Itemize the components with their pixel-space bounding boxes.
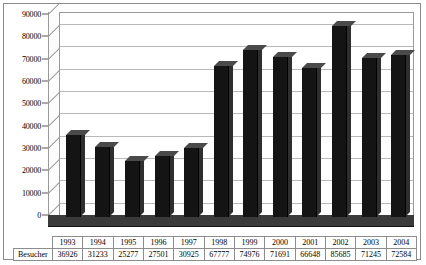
bar xyxy=(273,52,287,217)
table-value-cell: 74976 xyxy=(234,249,264,261)
table-value-cell: 85685 xyxy=(325,249,355,261)
y-axis-tick-label: 10000 xyxy=(22,188,41,197)
table-value-cell: 66648 xyxy=(295,249,325,261)
bar-front-face xyxy=(273,57,288,217)
table-year-cell: 2004 xyxy=(386,237,416,249)
bar-front-face xyxy=(332,26,347,217)
table-value-cell: 31233 xyxy=(83,249,113,261)
y-axis-tick-label: 90000 xyxy=(22,10,41,19)
y-axis-tick-label: 40000 xyxy=(22,121,41,130)
table-value-cell: 71691 xyxy=(265,249,295,261)
table-row-label: Besucher xyxy=(14,249,53,261)
bar xyxy=(391,50,405,217)
bar-front-face xyxy=(302,68,317,217)
y-axis-tick-label: 20000 xyxy=(22,166,41,175)
figure-frame: 0100002000030000400005000060000700008000… xyxy=(3,3,421,260)
table-value-cell: 25277 xyxy=(113,249,143,261)
table-value-cell: 72584 xyxy=(386,249,416,261)
table-year-cell: 2001 xyxy=(295,237,325,249)
bar xyxy=(362,53,376,217)
bar xyxy=(214,61,228,217)
bar xyxy=(243,45,257,217)
bar xyxy=(125,156,139,217)
table-corner-cell xyxy=(14,237,53,249)
bar xyxy=(302,63,316,217)
y-axis: 0100002000030000400005000060000700008000… xyxy=(4,4,48,238)
y-axis-tick-label: 50000 xyxy=(22,99,41,108)
chart-screenshot: 0100002000030000400005000060000700008000… xyxy=(0,0,426,265)
table-row-years: 1993199419951996199719981999200020012002… xyxy=(14,237,417,249)
bar-front-face xyxy=(125,161,140,217)
bar xyxy=(184,143,198,217)
bar xyxy=(332,21,346,217)
table-value-cell: 27501 xyxy=(143,249,173,261)
bar-front-face xyxy=(155,156,170,217)
table-value-cell: 30925 xyxy=(174,249,204,261)
bar xyxy=(66,130,80,217)
table-year-cell: 2002 xyxy=(325,237,355,249)
bar-front-face xyxy=(391,55,406,217)
table-year-cell: 1996 xyxy=(143,237,173,249)
table-year-cell: 1993 xyxy=(52,237,82,249)
table-year-cell: 1994 xyxy=(83,237,113,249)
table-value-cell: 71245 xyxy=(356,249,386,261)
y-axis-tick-label: 0 xyxy=(37,211,41,220)
table-value-cell: 67777 xyxy=(204,249,234,261)
plot-floor-edge xyxy=(48,226,414,227)
table-year-cell: 1999 xyxy=(234,237,264,249)
bar xyxy=(155,151,169,217)
bar-front-face xyxy=(243,50,258,217)
y-axis-tick-label: 60000 xyxy=(22,77,41,86)
bar-front-face xyxy=(95,147,110,217)
bar-front-face xyxy=(362,58,377,217)
table-year-cell: 2000 xyxy=(265,237,295,249)
table-year-cell: 2003 xyxy=(356,237,386,249)
bar-front-face xyxy=(214,66,229,217)
bar xyxy=(95,142,109,217)
table-year-cell: 1997 xyxy=(174,237,204,249)
table-year-cell: 1995 xyxy=(113,237,143,249)
data-table: 1993199419951996199719981999200020012002… xyxy=(13,236,417,261)
table-year-cell: 1998 xyxy=(204,237,234,249)
bar-front-face xyxy=(66,135,81,217)
table-value-cell: 36926 xyxy=(52,249,82,261)
chart-plot-region: 0100002000030000400005000060000700008000… xyxy=(4,4,422,238)
bar-front-face xyxy=(184,148,199,217)
y-axis-tick-label: 80000 xyxy=(22,32,41,41)
y-axis-tick-label: 70000 xyxy=(22,54,41,63)
table-row-values: Besucher 3692631233252772750130925677777… xyxy=(14,249,417,261)
bar-series-besucher xyxy=(59,12,414,226)
y-axis-tick-label: 30000 xyxy=(22,144,41,153)
